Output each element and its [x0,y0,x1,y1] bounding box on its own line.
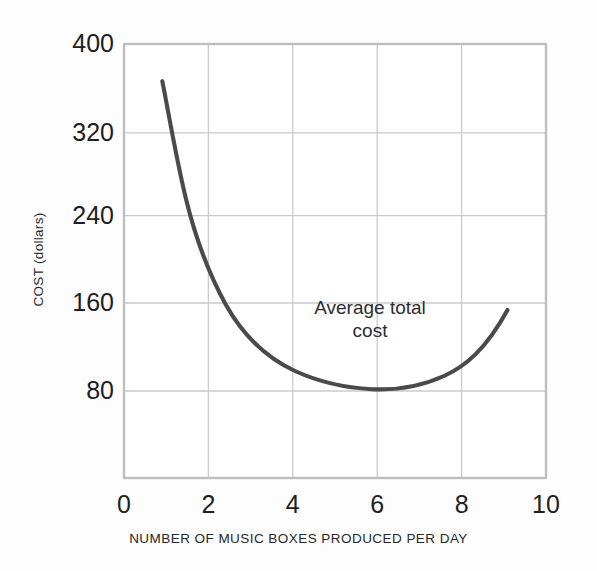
annotation-line-1: Average total [297,296,443,319]
average-total-cost-annotation: Average total cost [297,296,443,342]
x-tick-6: 6 [347,492,407,517]
x-tick-0: 0 [94,492,154,517]
x-tick-2: 2 [178,492,238,517]
x-tick-4: 4 [263,492,323,517]
x-tick-10: 10 [516,492,576,517]
cost-curve-figure: 400 320 240 160 80 COST (dollars) 0 2 4 … [0,0,597,571]
x-tick-8: 8 [432,492,492,517]
x-axis-title: NUMBER OF MUSIC BOXES PRODUCED PER DAY [0,531,597,546]
annotation-line-2: cost [297,319,443,342]
x-axis-tick-labels: 0 2 4 6 8 10 [0,0,597,571]
